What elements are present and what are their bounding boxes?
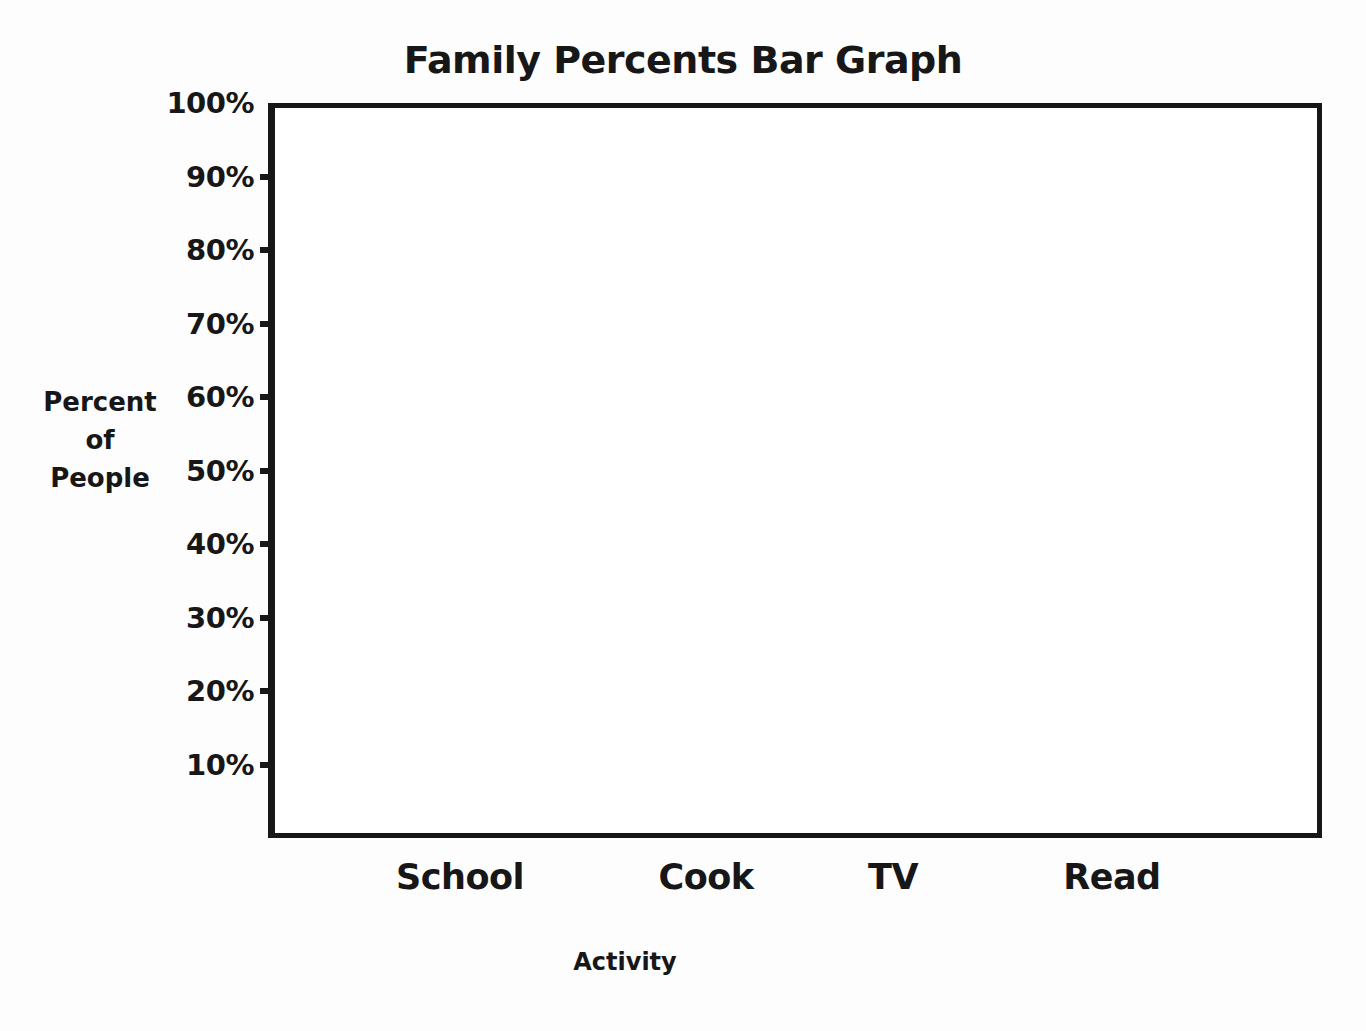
y-tick-label-40: 40%: [134, 527, 254, 561]
x-axis-title-text: Activity: [573, 948, 677, 976]
x-category-label-cook: Cook: [658, 857, 753, 897]
y-tick-label-30: 30%: [134, 601, 254, 635]
y-tick-label-100: 100%: [134, 86, 254, 120]
y-tick-label-60: 60%: [134, 380, 254, 414]
y-tick-label-20: 20%: [134, 674, 254, 708]
x-category-label-school: School: [396, 857, 524, 897]
y-tick-label-10: 10%: [134, 748, 254, 782]
chart-title: Family Percents Bar Graph: [0, 38, 1366, 82]
y-tick-label-80: 80%: [134, 233, 254, 267]
worksheet-page: Family Percents Bar Graph Percent of Peo…: [0, 0, 1366, 1031]
plot-frame: [268, 103, 1322, 838]
x-category-label-tv: TV: [868, 857, 918, 897]
y-tick-label-90: 90%: [134, 160, 254, 194]
x-axis-title: Activity: [0, 948, 1366, 976]
y-tick-label-70: 70%: [134, 307, 254, 341]
x-category-label-read: Read: [1063, 857, 1160, 897]
y-tick-label-50: 50%: [134, 454, 254, 488]
plot-area[interactable]: [275, 108, 1317, 833]
